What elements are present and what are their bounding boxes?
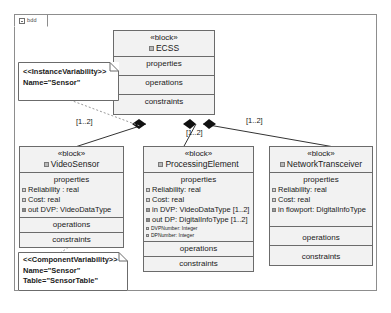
block-videosensor-name: VideoSensor (51, 159, 100, 170)
block-networktransceiver-header: «block» NetworkTransceiver (270, 147, 372, 173)
property-text: Reliability : real (28, 185, 79, 195)
property-text: Reliability: real (152, 185, 201, 195)
note-line: Name="Sensor" (23, 266, 123, 277)
block-videosensor-constraints-compartment: constraints (20, 233, 123, 247)
note-line: Name="Sensor" (23, 78, 114, 89)
block-ecss-operations-compartment: operations (114, 76, 214, 95)
diagram-tab-label: bdd (27, 18, 37, 24)
block-processingelement-constraints-compartment: constraints (144, 257, 253, 271)
note-component-variability-body: <<ComponentVariability>> Name="Sensor" T… (18, 252, 128, 287)
block-videosensor[interactable]: «block» VideoSensor properties Reliabili… (19, 146, 124, 248)
block-ecss-name-row: ECSS (114, 43, 214, 54)
compartment-label-properties: properties (146, 174, 251, 185)
property-text: Cost: real (278, 195, 310, 205)
block-networktransceiver-name: NetworkTransceiver (287, 159, 362, 170)
property-text: Cost: real (152, 195, 184, 205)
multiplicity-ecss-videosensor: [1..2] (76, 117, 93, 126)
flowport-in-icon (146, 208, 150, 212)
block-ecss[interactable]: «block» ECSS properties operations const… (113, 30, 215, 115)
property-text: DVPNumber: Integer (151, 225, 197, 232)
property-row: Cost: real (22, 195, 121, 205)
block-ecss-stereotype: «block» (114, 33, 214, 43)
property-row: Cost: real (272, 195, 370, 205)
block-processingelement-properties-compartment: properties Reliability: real Cost: real … (144, 173, 253, 242)
property-row: out DVP: VideoDataType (22, 205, 121, 215)
property-icon (146, 188, 150, 192)
block-ecss-properties-compartment: properties (114, 57, 214, 76)
block-processingelement-stereotype: «block» (144, 149, 253, 159)
property-icon (272, 198, 276, 202)
block-videosensor-header: «block» VideoSensor (20, 147, 123, 173)
property-row: in flowport: DigitalInfoType (272, 205, 370, 215)
multiplicity-ecss-networktransceiver: [1..2] (246, 116, 263, 125)
block-networktransceiver-name-row: NetworkTransceiver (270, 159, 372, 170)
property-row: out DP: DigitalInfoType [1..2] (146, 215, 251, 225)
note-line: Table="SensorTable" (23, 276, 123, 287)
note-stereotype: <<ComponentVariability>> (23, 255, 123, 266)
block-processingelement-header: «block» ProcessingElement (144, 147, 253, 173)
property-text: in flowport: DigitalInfoType (278, 205, 366, 215)
block-videosensor-properties-compartment: properties Reliability : real Cost: real… (20, 173, 123, 218)
compartment-label-properties: properties (272, 174, 370, 185)
block-icon (149, 46, 154, 51)
property-row: DVPNumber: Integer (146, 225, 251, 232)
note-stereotype: <<InstanceVariability>> (23, 67, 114, 78)
flowport-out-icon (146, 218, 150, 222)
block-networktransceiver[interactable]: «block» NetworkTransceiver properties Re… (269, 146, 373, 266)
property-text: DPNumber: Integer (151, 232, 194, 239)
property-icon (22, 188, 26, 192)
block-networktransceiver-constraints-compartment: constraints (270, 246, 372, 265)
property-icon (272, 188, 276, 192)
block-ecss-name: ECSS (156, 43, 179, 54)
property-text: out DVP: VideoDataType (28, 205, 111, 215)
property-row: DPNumber: Integer (146, 232, 251, 239)
block-videosensor-name-row: VideoSensor (20, 159, 123, 170)
diagram-icon (19, 18, 25, 24)
note-instance-variability[interactable]: <<InstanceVariability>> Name="Sensor" (18, 62, 119, 101)
block-processingelement-name: ProcessingElement (165, 159, 238, 170)
compartment-label-properties: properties (22, 174, 121, 185)
property-row: Cost: real (146, 195, 251, 205)
property-text: Reliability: real (278, 185, 327, 195)
note-component-variability[interactable]: <<ComponentVariability>> Name="Sensor" T… (18, 252, 128, 291)
note-instance-variability-body: <<InstanceVariability>> Name="Sensor" (18, 62, 119, 88)
property-icon (22, 198, 26, 202)
property-row: Reliability: real (272, 185, 370, 195)
block-processingelement[interactable]: «block» ProcessingElement properties Rel… (143, 146, 254, 272)
property-text: in DVP: VideoDataType [1..2] (152, 205, 249, 215)
block-icon (158, 162, 163, 167)
bdd-diagram-canvas: bdd ECSS --> VideoSensor --> [1..2] [1..… (0, 0, 391, 313)
property-row: Reliability: real (146, 185, 251, 195)
block-videosensor-stereotype: «block» (20, 149, 123, 159)
multiplicity-ecss-processingelement: [1..2] (186, 128, 203, 137)
property-text: out DP: DigitalInfoType [1..2] (152, 215, 247, 225)
flowport-in-icon (272, 208, 276, 212)
property-icon (146, 234, 149, 237)
block-ecss-header: «block» ECSS (114, 31, 214, 57)
property-row: in DVP: VideoDataType [1..2] (146, 205, 251, 215)
block-icon (44, 162, 49, 167)
property-row: Reliability : real (22, 185, 121, 195)
block-ecss-constraints-compartment: constraints (114, 95, 214, 114)
block-networktransceiver-properties-compartment: properties Reliability: real Cost: real … (270, 173, 372, 227)
block-icon (280, 162, 285, 167)
block-networktransceiver-operations-compartment: operations (270, 227, 372, 246)
property-text: Cost: real (28, 195, 60, 205)
diagram-frame-tab[interactable]: bdd (14, 14, 48, 27)
flowport-out-icon (22, 208, 26, 212)
block-processingelement-operations-compartment: operations (144, 242, 253, 257)
property-icon (146, 227, 149, 230)
block-networktransceiver-stereotype: «block» (270, 149, 372, 159)
block-processingelement-name-row: ProcessingElement (144, 159, 253, 170)
block-videosensor-operations-compartment: operations (20, 218, 123, 233)
property-icon (146, 198, 150, 202)
